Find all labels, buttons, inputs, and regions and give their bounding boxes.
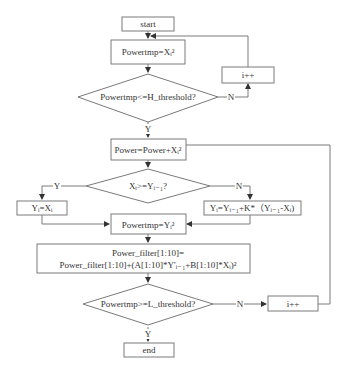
node-l-threshold: Powertmp>=L_threshold? — [83, 284, 213, 325]
label-cmp-yes: Y — [54, 181, 61, 191]
node-power-filter-line1: Power_filter[1:10]= — [112, 248, 184, 258]
node-end: end — [124, 343, 174, 357]
node-powertmp-x-text: Powertmp=Xᵢ² — [122, 47, 175, 57]
node-y-eq-x: Yᵢ=Xᵢ — [17, 201, 67, 215]
node-power-filter-line2: Power_filter[1:10]+(A[1:10]*Y'ᵢ₋₁+B[1:10… — [59, 260, 236, 270]
node-i-inc-top: i++ — [222, 67, 274, 83]
edge-compare-no — [210, 186, 250, 199]
node-i-inc-top-text: i++ — [242, 70, 255, 80]
label-l-no: N — [237, 299, 244, 309]
node-y-update: Yᵢ=Yᵢ₋₁+K*（Yᵢ₋₁-Xᵢ) — [204, 201, 301, 215]
node-powertmp-y-text: Powertmp=Yᵢ² — [122, 220, 175, 230]
node-compare-text: Xᵢ>=Yᵢ₋₁? — [129, 181, 167, 191]
node-l-threshold-text: Powertmp>=L_threshold? — [101, 299, 196, 309]
node-start-text: start — [140, 19, 156, 29]
node-y-eq-x-text: Yᵢ=Xᵢ — [31, 203, 53, 213]
edge-yupdate-to-powertmpy — [187, 215, 250, 224]
label-h-no: N — [228, 92, 235, 102]
label-l-yes: Y — [145, 329, 152, 339]
label-h-yes: Y — [145, 124, 152, 134]
node-i-inc-bottom: i++ — [268, 296, 318, 311]
node-i-inc-bottom-text: i++ — [287, 299, 300, 309]
node-power-add: Power=Power+Xᵢ² — [111, 139, 186, 160]
node-compare: Xᵢ>=Yᵢ₋₁? — [86, 169, 210, 203]
node-end-text: end — [143, 345, 156, 355]
node-h-threshold-text: Powertmp<=H_threshold? — [100, 92, 196, 102]
edge-yeqx-to-powertmpy — [42, 215, 109, 224]
node-power-filter: Power_filter[1:10]= Power_filter[1:10]+(… — [37, 244, 250, 273]
node-h-threshold: Powertmp<=H_threshold? — [78, 74, 218, 122]
node-start: start — [122, 17, 174, 31]
label-cmp-no: N — [236, 181, 243, 191]
node-y-update-text: Yᵢ=Yᵢ₋₁+K*（Yᵢ₋₁-Xᵢ) — [210, 203, 294, 213]
node-powertmp-x: Powertmp=Xᵢ² — [111, 40, 185, 64]
node-power-add-text: Power=Power+Xᵢ² — [115, 145, 182, 155]
node-powertmp-y: Powertmp=Yᵢ² — [111, 214, 186, 234]
flowchart: N Y Y N N Y start Powertmp=Xᵢ² Powertmp<… — [0, 0, 345, 372]
edge-compare-yes — [42, 186, 86, 199]
